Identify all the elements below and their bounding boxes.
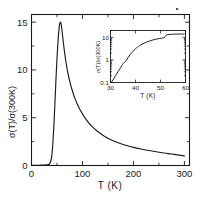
figure-container: 051015 0100200300 T (K) σ(T)/σ(300K) 0.1… xyxy=(0,0,203,199)
inset-x-ticklabel: 40 xyxy=(132,84,139,91)
main-y-ticklabel: 5 xyxy=(22,112,27,123)
main-x-ticklabel: 300 xyxy=(176,168,192,179)
main-y-ticklabel: 15 xyxy=(17,17,28,28)
conductivity-ratio-figure: 051015 0100200300 T (K) σ(T)/σ(300K) 0.1… xyxy=(0,0,203,199)
stray-ink-speck-icon xyxy=(176,8,178,10)
inset-x-ticklabel: 50 xyxy=(157,84,164,91)
inset-x-ticklabels: 30405060 xyxy=(107,84,189,91)
inset-y-ticklabel: 1 xyxy=(105,56,109,63)
main-data-curve xyxy=(32,22,185,165)
main-y-axis-title: σ(T)/σ(300K) xyxy=(7,86,17,138)
inset-y-axis-title: σ(T)/σ(300K) xyxy=(95,41,101,74)
inset-y-ticklabel: 10 xyxy=(102,34,109,41)
main-y-ticklabel: 0 xyxy=(22,160,27,171)
inset-data-curve xyxy=(111,34,184,83)
inset-x-ticklabel: 60 xyxy=(182,84,189,91)
main-y-ticklabels: 051015 xyxy=(17,17,28,171)
inset-x-ticks xyxy=(111,31,186,83)
inset-x-ticklabel: 30 xyxy=(107,84,114,91)
inset-y-ticklabels: 0.1110 xyxy=(100,34,109,86)
inset-plot-frame xyxy=(111,31,186,83)
inset-y-ticks xyxy=(111,31,186,83)
main-x-axis-title: T (K) xyxy=(98,180,123,191)
main-x-ticklabel: 0 xyxy=(29,168,34,179)
main-y-ticklabel: 10 xyxy=(17,64,28,75)
main-x-ticklabel: 200 xyxy=(126,168,142,179)
inset-x-axis-title: T (K) xyxy=(140,92,156,100)
main-x-ticklabels: 0100200300 xyxy=(29,168,192,179)
main-x-ticklabel: 100 xyxy=(75,168,91,179)
